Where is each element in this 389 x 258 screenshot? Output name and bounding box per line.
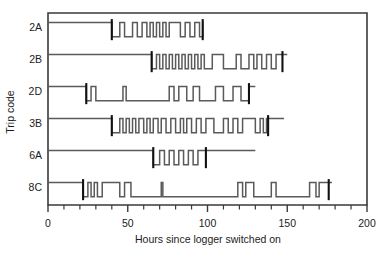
y-category-label-2b: 2B: [29, 53, 42, 65]
x-axis-ticks: [48, 205, 367, 212]
trace-2d: [48, 87, 255, 101]
y-category-labels: 2A2B2D3B6A8C: [29, 21, 43, 193]
trace-2b: [48, 55, 287, 69]
x-tick-labels: 050100150200: [45, 217, 376, 229]
y-category-label-2d: 2D: [29, 85, 43, 97]
chart-page: 050100150200 2A2B2D3B6A8C Hours since lo…: [0, 0, 389, 258]
traces-group: [48, 19, 332, 200]
x-tick-label: 50: [122, 217, 134, 229]
y-category-label-6a: 6A: [29, 149, 42, 161]
trace-2a: [48, 23, 203, 37]
plot-frame: [48, 13, 367, 205]
trace-6a: [48, 151, 255, 165]
y-category-label-3b: 3B: [29, 117, 42, 129]
x-tick-label: 0: [45, 217, 51, 229]
axis-frame: [48, 13, 367, 205]
y-axis-title: Trip code: [4, 90, 16, 134]
x-tick-label: 150: [278, 217, 296, 229]
x-tick-label: 100: [199, 217, 217, 229]
y-category-label-8c: 8C: [29, 181, 43, 193]
step-chart: 050100150200 2A2B2D3B6A8C Hours since lo…: [0, 0, 389, 258]
x-tick-label: 200: [358, 217, 376, 229]
trace-3b: [48, 119, 284, 133]
trace-8c: [48, 183, 332, 197]
y-category-label-2a: 2A: [29, 21, 42, 33]
x-axis-title: Hours since logger switched on: [135, 233, 281, 245]
